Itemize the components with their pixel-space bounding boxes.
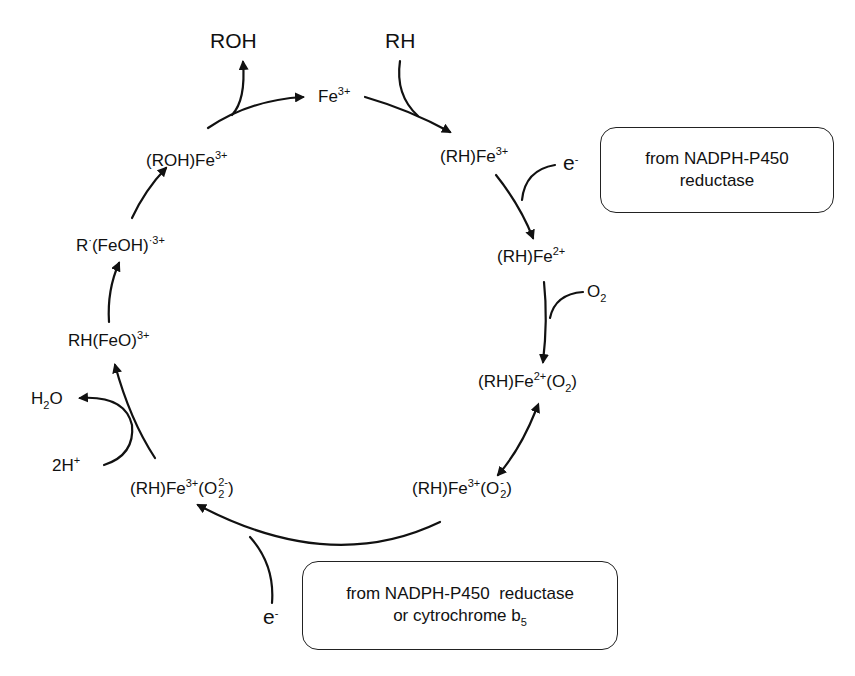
species-rh-fe2-o2-mid: (O — [546, 372, 565, 391]
species-peroxo-stack: 2-2 — [218, 477, 228, 500]
protons-base: 2H — [52, 456, 74, 475]
protons-label: 2H+ — [52, 457, 80, 474]
arrow-rohfe-to-fe — [208, 97, 303, 128]
species-fe3-charge: 3+ — [338, 85, 351, 97]
reductase-or-cytb5-box-line2: or cytrochrome b5 — [303, 605, 617, 628]
electron-1-charge: - — [575, 153, 579, 165]
species-rh-feo: RH(FeO)3+ — [68, 332, 150, 349]
species-superoxo-o-sub: 2 — [500, 489, 506, 501]
species-superoxo-charge: 3+ — [468, 477, 481, 489]
oxygen-subscript: 2 — [600, 292, 606, 304]
species-rh-fe2: (RH)Fe2+ — [497, 248, 565, 265]
species-rh-fe3-base: (RH)Fe — [440, 147, 496, 166]
box2-line2-subscript: 5 — [521, 616, 527, 628]
electron-1-base: e — [563, 151, 575, 174]
species-peroxo-o-sub: 2 — [218, 489, 228, 501]
arrow-rhfe3-to-rhfe2 — [496, 175, 533, 238]
species-fe3: Fe3+ — [318, 88, 350, 105]
arrow-2h-to-h2o — [80, 398, 132, 465]
electron-2-label: e- — [263, 606, 278, 627]
arrow-rhfe2-to-o2 — [543, 282, 546, 362]
species-roh-fe3: (ROH)Fe3+ — [146, 152, 228, 169]
species-rh-fe3-superoxo: (RH)Fe3+(O-2) — [412, 478, 512, 501]
species-rh-fe3-charge: 3+ — [496, 145, 509, 157]
species-peroxo-pre: (RH)Fe — [130, 479, 186, 498]
species-superoxo-post: ) — [506, 479, 512, 498]
species-rh-fe2-o2-charge: 2+ — [534, 370, 547, 382]
species-rh-fe3: (RH)Fe3+ — [440, 148, 508, 165]
water-label: H2O — [31, 390, 63, 407]
protons-charge: + — [74, 454, 80, 466]
species-radical-mid: (FeOH) — [92, 236, 149, 255]
roh-product-label: ROH — [210, 30, 257, 51]
arrow-o2-in — [550, 292, 583, 318]
reductase-or-cytb5-box-line1: from NADPH-P450 reductase — [303, 583, 617, 605]
oxygen-base: O — [587, 282, 600, 301]
water-post: O — [49, 389, 62, 408]
species-roh-fe3-charge: 3+ — [215, 149, 228, 161]
species-radical-r: R — [76, 236, 88, 255]
species-superoxo-stack: -2 — [500, 477, 506, 500]
arrow-superoxo-to-peroxo — [198, 505, 440, 545]
arrow-rh-in — [399, 61, 418, 116]
species-radical-feoh: R·(FeOH)·3+ — [76, 237, 165, 254]
species-fe3-base: Fe — [318, 87, 338, 106]
arrow-e1-in — [522, 165, 555, 200]
species-peroxo-mid: (O — [198, 479, 217, 498]
water-subscript: 2 — [43, 399, 49, 411]
species-rh-fe2-o2: (RH)Fe2+(O2) — [478, 373, 577, 390]
reductase-or-cytb5-box: from NADPH-P450 reductase or cytrochrome… — [302, 561, 618, 650]
electron-2-charge: - — [275, 607, 279, 619]
species-rh-feo-base: RH(FeO) — [68, 331, 137, 350]
arrow-e2-in — [250, 537, 272, 603]
species-radical-charge: 3+ — [152, 234, 165, 246]
species-rh-fe2-o2-pre: (RH)Fe — [478, 372, 534, 391]
species-superoxo-pre: (RH)Fe — [412, 479, 468, 498]
arrow-reversible-superoxo — [498, 410, 536, 475]
arrow-feo-to-radical — [109, 263, 119, 322]
electron-1-label: e- — [563, 152, 578, 173]
arrow-peroxo-to-feo — [115, 365, 155, 458]
arrow-to-roh — [232, 62, 244, 115]
p450-cycle-diagram: ROH RH Fe3+ (RH)Fe3+ e- from NADPH-P450 … — [0, 0, 855, 676]
species-rh-fe3-peroxo: (RH)Fe3+(O2-2) — [130, 478, 234, 501]
species-rh-feo-charge: 3+ — [137, 329, 150, 341]
species-rh-fe2-charge: 2+ — [553, 245, 566, 257]
species-rh-fe2-o2-sub: 2 — [565, 382, 571, 394]
species-roh-fe3-base: (ROH)Fe — [146, 151, 215, 170]
nadph-reductase-box: from NADPH-P450 reductase — [600, 127, 834, 213]
species-peroxo-post: ) — [228, 479, 234, 498]
species-superoxo-o-charge: - — [500, 477, 506, 489]
species-superoxo-mid: (O — [480, 479, 499, 498]
arrow-radical-to-rohfe — [132, 168, 166, 218]
species-rh-fe2-base: (RH)Fe — [497, 247, 553, 266]
species-peroxo-charge: 3+ — [186, 477, 199, 489]
water-pre: H — [31, 389, 43, 408]
species-peroxo-o-charge: 2- — [218, 477, 228, 489]
nadph-reductase-box-line1: from NADPH-P450 — [601, 148, 833, 170]
electron-2-base: e — [263, 605, 275, 628]
oxygen-label: O2 — [587, 283, 606, 300]
box2-line2-text: or cytrochrome b — [393, 606, 521, 625]
rh-substrate-label: RH — [385, 30, 415, 51]
nadph-reductase-box-line2: reductase — [601, 170, 833, 192]
species-rh-fe2-o2-post: ) — [571, 372, 577, 391]
species-radical-dot1: · — [88, 234, 92, 246]
